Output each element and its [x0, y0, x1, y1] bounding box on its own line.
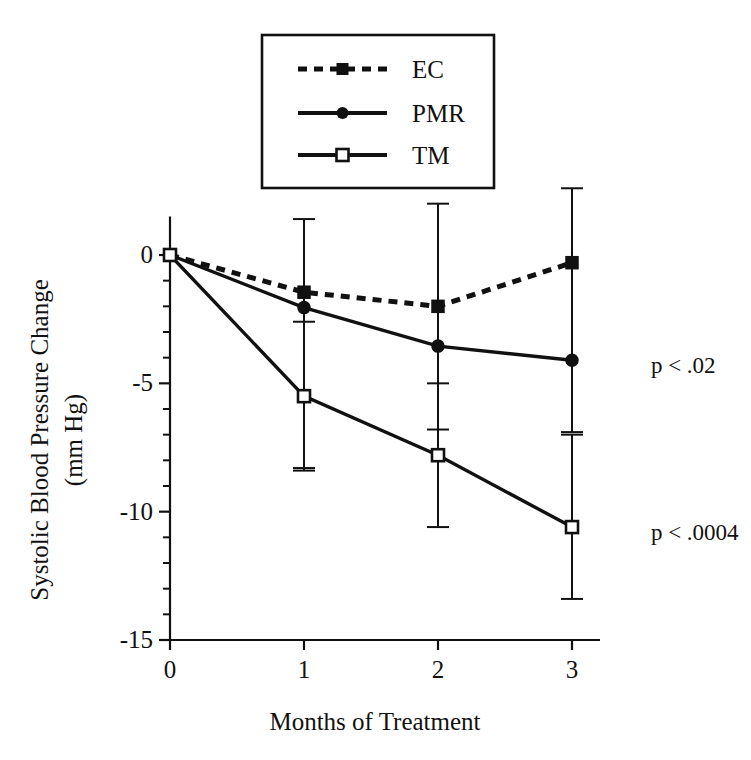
y-axis-label-line2: (mm Hg)	[60, 394, 88, 486]
marker-ec	[432, 300, 444, 312]
x-tick-label: 1	[298, 656, 311, 683]
marker-tm	[298, 390, 310, 402]
x-axis-label: Months of Treatment	[269, 708, 480, 735]
marker-pmr	[432, 340, 444, 352]
x-tick-label: 2	[432, 656, 445, 683]
y-tick-label: -5	[132, 369, 153, 396]
y-tick-label: -10	[120, 498, 153, 525]
series-line-ec	[170, 255, 572, 306]
marker-pmr	[566, 354, 578, 366]
marker-ec	[298, 286, 310, 298]
series-line-tm	[170, 255, 572, 527]
chart-canvas: 0-5-10-150123p < .02p < .0004Months of T…	[0, 0, 751, 760]
legend-marker-ec[interactable]	[337, 63, 349, 75]
marker-tm	[164, 249, 176, 261]
marker-pmr	[298, 302, 310, 314]
x-tick-label: 3	[566, 656, 579, 683]
legend-label-ec: EC	[412, 56, 444, 83]
legend-label-pmr: PMR	[412, 100, 465, 127]
marker-tm	[566, 521, 578, 533]
marker-tm	[432, 449, 444, 461]
annotation-p-0004: p < .0004	[651, 520, 739, 545]
y-axis-label-line1: Systolic Blood Pressure Change	[26, 279, 53, 601]
marker-ec	[566, 257, 578, 269]
chart-svg: 0-5-10-150123p < .02p < .0004Months of T…	[0, 0, 751, 760]
legend-marker-pmr[interactable]	[337, 107, 349, 119]
y-tick-label: 0	[141, 241, 154, 268]
legend-marker-tm[interactable]	[337, 149, 349, 161]
y-tick-label: -15	[120, 626, 153, 653]
annotation-p-02: p < .02	[651, 353, 716, 378]
series-line-pmr	[170, 255, 572, 360]
x-tick-label: 0	[164, 656, 177, 683]
legend-label-tm: TM	[412, 142, 450, 169]
